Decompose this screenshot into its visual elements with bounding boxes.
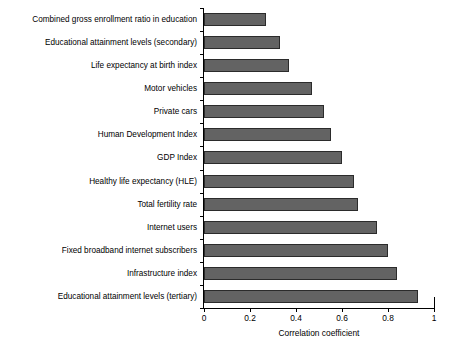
bar-row: Motor vehicles bbox=[204, 77, 434, 100]
bar bbox=[204, 82, 312, 95]
bar-row: Combined gross enrollment ratio in educa… bbox=[204, 8, 434, 31]
x-axis-title: Correlation coefficient bbox=[204, 328, 434, 338]
bar bbox=[204, 36, 280, 49]
x-axis-tick-label: 0.2 bbox=[244, 313, 256, 323]
y-axis-tick bbox=[200, 54, 204, 55]
y-axis-tick bbox=[200, 239, 204, 240]
y-axis-tick bbox=[200, 262, 204, 263]
x-axis-line bbox=[204, 308, 435, 309]
y-axis-tick bbox=[200, 123, 204, 124]
bar-category-label: Total fertility rate bbox=[137, 196, 197, 213]
x-axis-tick-label: 0.6 bbox=[336, 313, 348, 323]
bar bbox=[204, 175, 354, 188]
x-axis-tick-label: 1 bbox=[432, 313, 437, 323]
x-axis-tick-label: 0.4 bbox=[290, 313, 302, 323]
y-axis-tick bbox=[200, 77, 204, 78]
bar bbox=[204, 198, 358, 211]
plot-area: Combined gross enrollment ratio in educa… bbox=[204, 8, 434, 308]
bar bbox=[204, 105, 324, 118]
bar-row: Human Development Index bbox=[204, 123, 434, 146]
bar-row: Private cars bbox=[204, 100, 434, 123]
y-axis-tick bbox=[200, 170, 204, 171]
bar-row: Total fertility rate bbox=[204, 193, 434, 216]
bar-category-label: Human Development Index bbox=[98, 126, 197, 143]
bar-row: Internet users bbox=[204, 216, 434, 239]
bar-row: GDP Index bbox=[204, 146, 434, 169]
bar-category-label: Life expectancy at birth index bbox=[91, 57, 197, 74]
bar bbox=[204, 59, 289, 72]
bar-category-label: Combined gross enrollment ratio in educa… bbox=[32, 11, 197, 28]
bar bbox=[204, 290, 418, 303]
x-axis-tick bbox=[296, 308, 297, 312]
bar-row: Healthy life expectancy (HLE) bbox=[204, 170, 434, 193]
bar bbox=[204, 221, 377, 234]
bar-row: Educational attainment levels (secondary… bbox=[204, 31, 434, 54]
x-axis-tick bbox=[204, 308, 205, 312]
x-axis-tick bbox=[434, 308, 435, 312]
bar-chart-figure: Combined gross enrollment ratio in educa… bbox=[0, 0, 452, 349]
y-axis-tick bbox=[200, 31, 204, 32]
y-axis-tick bbox=[200, 100, 204, 101]
x-axis-tick-label: 0.8 bbox=[382, 313, 394, 323]
bar bbox=[204, 128, 331, 141]
bar-row: Educational attainment levels (tertiary) bbox=[204, 285, 434, 308]
bar bbox=[204, 244, 388, 257]
bar-category-label: Internet users bbox=[147, 219, 197, 236]
bar-category-label: Healthy life expectancy (HLE) bbox=[89, 173, 197, 190]
bar-category-label: Infrastructure index bbox=[127, 265, 197, 282]
bar-category-label: GDP Index bbox=[157, 149, 197, 166]
y-axis-tick bbox=[200, 193, 204, 194]
y-axis-tick bbox=[200, 146, 204, 147]
bar-category-label: Fixed broadband internet subscribers bbox=[62, 242, 197, 259]
x-axis-tick-label: 0 bbox=[202, 313, 207, 323]
x-axis-tick bbox=[342, 308, 343, 312]
bar bbox=[204, 13, 266, 26]
bar-category-label: Educational attainment levels (tertiary) bbox=[58, 288, 197, 305]
x-axis-tick bbox=[388, 308, 389, 312]
bar-row: Infrastructure index bbox=[204, 262, 434, 285]
bar bbox=[204, 267, 397, 280]
y-axis-tick bbox=[200, 285, 204, 286]
y-axis-tick bbox=[200, 216, 204, 217]
bar-category-label: Motor vehicles bbox=[144, 80, 197, 97]
bar-category-label: Private cars bbox=[154, 103, 197, 120]
x-axis-tick bbox=[250, 308, 251, 312]
y-axis-tick bbox=[200, 8, 204, 9]
bar-category-label: Educational attainment levels (secondary… bbox=[45, 34, 197, 51]
bar-row: Life expectancy at birth index bbox=[204, 54, 434, 77]
bar bbox=[204, 151, 342, 164]
bar-row: Fixed broadband internet subscribers bbox=[204, 239, 434, 262]
